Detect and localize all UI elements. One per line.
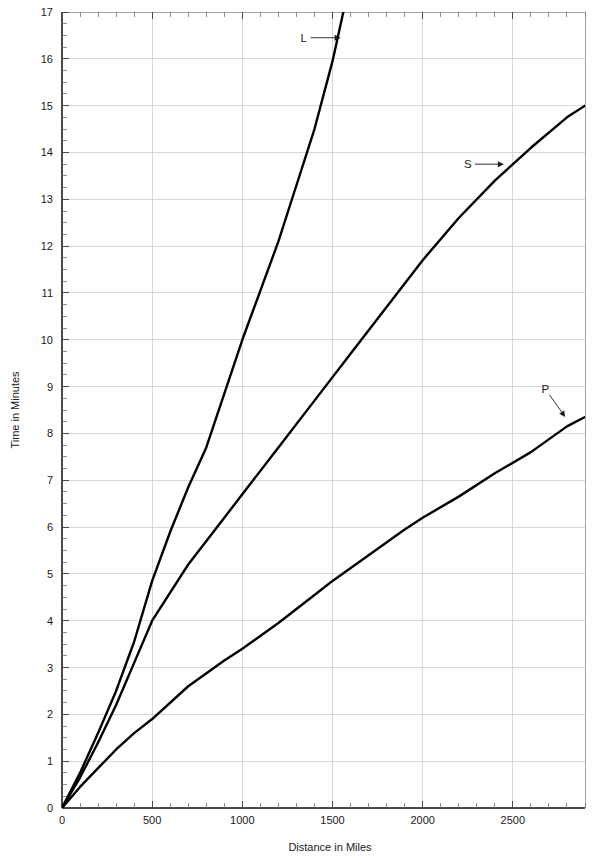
y-tick-label: 8 <box>47 427 53 439</box>
y-tick-label: 15 <box>41 100 53 112</box>
x-tick-label: 500 <box>143 814 161 826</box>
y-tick-label: 12 <box>41 240 53 252</box>
series-line-l <box>62 12 343 808</box>
series-leader-arrow-p <box>559 410 565 417</box>
series-line-s <box>62 106 585 808</box>
y-tick-label: 0 <box>47 802 53 814</box>
series-layer <box>62 12 585 808</box>
y-tick-label: 7 <box>47 474 53 486</box>
series-label-p: P <box>541 383 549 395</box>
y-tick-label: 10 <box>41 334 53 346</box>
y-tick-label: 3 <box>47 662 53 674</box>
series-annotations: LSP <box>300 32 565 417</box>
x-tick-label: 2500 <box>501 814 525 826</box>
series-label-s: S <box>464 158 472 170</box>
y-tick-label: 6 <box>47 521 53 533</box>
plot-frame <box>62 12 585 808</box>
x-tick-label: 1000 <box>230 814 254 826</box>
y-axis-title: Time in Minutes <box>9 371 21 449</box>
series-leader-line-p <box>549 395 563 415</box>
line-chart: 0500100015002000250001234567891011121314… <box>0 0 599 864</box>
series-label-l: L <box>300 32 307 44</box>
axis-tick-labels: 0500100015002000250001234567891011121314… <box>41 6 525 826</box>
y-tick-label: 11 <box>42 287 53 299</box>
y-tick-label: 5 <box>47 568 53 580</box>
series-leader-arrow-s <box>498 161 504 167</box>
x-axis-title: Distance in Miles <box>288 841 372 853</box>
chart-container: 0500100015002000250001234567891011121314… <box>0 0 599 864</box>
x-tick-label: 2000 <box>410 814 434 826</box>
y-tick-label: 16 <box>41 53 53 65</box>
y-tick-label: 1 <box>47 755 53 767</box>
y-tick-label: 17 <box>41 6 53 18</box>
x-tick-label: 0 <box>59 814 65 826</box>
y-tick-label: 9 <box>47 381 53 393</box>
y-tick-label: 14 <box>41 146 53 158</box>
x-tick-label: 1500 <box>320 814 344 826</box>
y-tick-label: 13 <box>41 193 53 205</box>
grid-layer <box>62 12 585 808</box>
series-line-p <box>62 417 585 808</box>
y-tick-label: 4 <box>47 615 53 627</box>
axis-ticks <box>62 12 585 808</box>
y-tick-label: 2 <box>47 708 53 720</box>
